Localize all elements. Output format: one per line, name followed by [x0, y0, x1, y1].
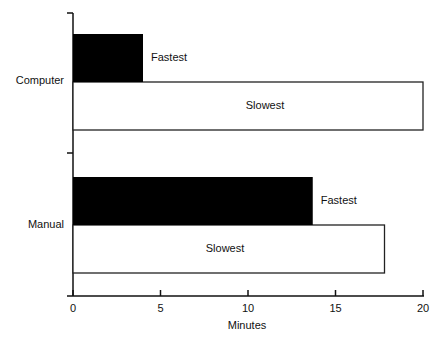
bars: FastestSlowestFastestSlowest [73, 34, 423, 273]
bar-chart: 05101520 Minutes FastestSlowestFastestSl… [0, 0, 443, 343]
x-axis-label: Minutes [228, 319, 267, 331]
bar-label-slowest: Slowest [206, 242, 245, 254]
bar-label-fastest: Fastest [151, 51, 187, 63]
bar-fastest-manual [73, 177, 313, 225]
bar-label-fastest: Fastest [321, 194, 357, 206]
x-tick-label: 5 [157, 302, 163, 314]
bar-fastest-computer [73, 34, 143, 82]
x-tick-label: 0 [70, 302, 76, 314]
x-tick-label: 10 [242, 302, 254, 314]
x-axis-ticks: 05101520 [70, 290, 429, 314]
x-tick-label: 20 [417, 302, 429, 314]
category-label-manual: Manual [28, 218, 64, 230]
bar-label-slowest: Slowest [246, 99, 285, 111]
category-label-computer: Computer [16, 74, 65, 86]
x-tick-label: 15 [329, 302, 341, 314]
